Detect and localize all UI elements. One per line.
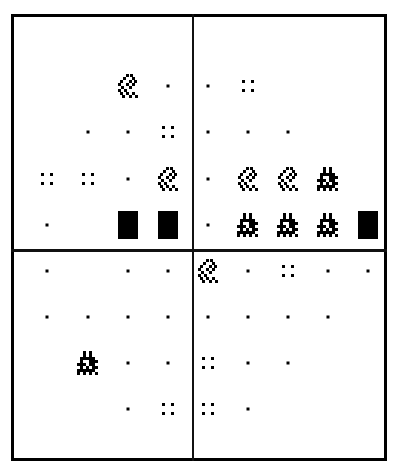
quad-glyph-icon xyxy=(273,256,303,286)
dense-glyph-icon xyxy=(273,210,303,240)
dot-glyph-icon xyxy=(193,71,223,101)
dot-glyph-icon xyxy=(233,394,263,424)
dot-glyph-icon xyxy=(153,256,183,286)
dot-glyph-icon xyxy=(313,256,343,286)
sparse-glyph-icon xyxy=(233,164,263,194)
dot-glyph-icon xyxy=(32,210,62,240)
sparse-glyph-icon xyxy=(273,164,303,194)
sparse-glyph-icon xyxy=(193,256,223,286)
dot-glyph-icon xyxy=(113,394,143,424)
dot-glyph-icon xyxy=(193,164,223,194)
dot-glyph-icon xyxy=(113,348,143,378)
dot-glyph-icon xyxy=(113,302,143,332)
quad-glyph-icon xyxy=(73,164,103,194)
dot-glyph-icon xyxy=(353,256,383,286)
quad-glyph-icon xyxy=(233,71,263,101)
dot-glyph-icon xyxy=(113,256,143,286)
dot-glyph-icon xyxy=(273,117,303,147)
dot-glyph-icon xyxy=(273,348,303,378)
dense-glyph-icon xyxy=(73,348,103,378)
sparse-glyph-icon xyxy=(153,164,183,194)
quad-glyph-icon xyxy=(153,117,183,147)
dot-glyph-icon xyxy=(233,302,263,332)
block-glyph-icon xyxy=(153,210,183,240)
dot-glyph-icon xyxy=(233,256,263,286)
block-glyph-icon xyxy=(353,210,383,240)
dot-glyph-icon xyxy=(233,348,263,378)
dot-glyph-icon xyxy=(193,210,223,240)
dot-glyph-icon xyxy=(73,302,103,332)
quad-glyph-icon xyxy=(193,394,223,424)
dot-glyph-icon xyxy=(153,348,183,378)
dot-glyph-icon xyxy=(32,256,62,286)
dense-glyph-icon xyxy=(313,164,343,194)
sparse-glyph-icon xyxy=(113,71,143,101)
block-glyph-icon xyxy=(113,210,143,240)
dot-glyph-icon xyxy=(233,117,263,147)
quad-glyph-icon xyxy=(153,394,183,424)
dot-glyph-icon xyxy=(113,164,143,194)
dot-glyph-icon xyxy=(32,302,62,332)
dot-glyph-icon xyxy=(73,117,103,147)
dot-glyph-icon xyxy=(153,71,183,101)
dot-glyph-icon xyxy=(153,302,183,332)
quad-glyph-icon xyxy=(32,164,62,194)
dense-glyph-icon xyxy=(233,210,263,240)
horizontal-divider xyxy=(11,249,387,252)
dense-glyph-icon xyxy=(313,210,343,240)
dot-glyph-icon xyxy=(193,302,223,332)
quad-glyph-icon xyxy=(193,348,223,378)
dot-glyph-icon xyxy=(193,117,223,147)
dot-glyph-icon xyxy=(113,117,143,147)
dot-glyph-icon xyxy=(273,302,303,332)
dot-glyph-icon xyxy=(313,302,343,332)
